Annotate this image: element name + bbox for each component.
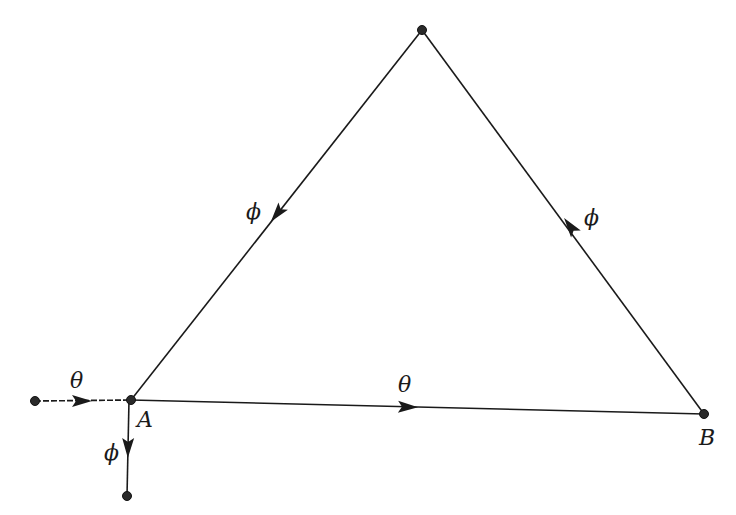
label-edge-a-to-b: θ <box>398 372 411 397</box>
label-edge-output: ϕ <box>104 440 119 465</box>
label-edge-top-to-a: ϕ <box>246 199 261 224</box>
label-edge-b-to-top: ϕ <box>584 205 599 230</box>
arrow-b-to-top-icon <box>559 214 581 237</box>
node-sink <box>123 492 132 501</box>
node-source <box>31 397 40 406</box>
label-edge-input: θ <box>70 368 83 393</box>
node-top <box>418 26 427 35</box>
label-node-a: A <box>135 407 153 432</box>
node-a <box>127 396 136 405</box>
edge-a-to-b <box>131 400 704 414</box>
arrow-input-icon <box>72 395 92 407</box>
label-node-b: B <box>698 425 715 450</box>
signal-flow-diagram: θ θ ϕ ϕ ϕ A B <box>0 0 736 515</box>
node-b <box>700 410 709 419</box>
edge-b-to-top <box>422 30 704 414</box>
